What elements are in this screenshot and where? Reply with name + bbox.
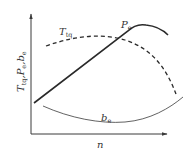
label-ttq: Ttq bbox=[59, 26, 72, 39]
curve-fuel-consumption-be bbox=[43, 97, 183, 122]
label-be: be bbox=[101, 112, 111, 125]
engine-characteristic-diagram: Ttq Pe be n Ttq,Pe,be bbox=[0, 0, 195, 160]
x-axis-label: n bbox=[97, 139, 103, 150]
label-pe: Pe bbox=[120, 19, 132, 32]
y-axis-label: Ttq,Pe,be bbox=[15, 51, 28, 92]
